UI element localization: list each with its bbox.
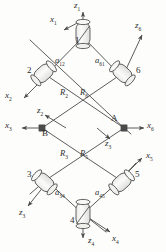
R5-sub: 5	[85, 154, 88, 160]
joint-5-cylinder	[107, 168, 136, 196]
link-length-a45: a45	[95, 188, 105, 199]
x2-sub: 2	[9, 96, 12, 102]
z3c-sub: 3	[109, 144, 112, 150]
z3l-sub: 3	[23, 213, 26, 219]
z4-sub: 4	[92, 241, 95, 247]
axis-label-z3-center: z3	[105, 139, 111, 150]
z1-sub: 1	[78, 6, 81, 12]
axis-label-x3: x3	[5, 121, 12, 132]
axis-label-x6: x6	[147, 121, 154, 132]
joint-4-cylinder	[76, 199, 90, 228]
x4-sub: 4	[116, 239, 119, 245]
joint-number-5: 5	[135, 170, 140, 179]
offset-R3: R3	[60, 149, 68, 160]
a12-sub: 12	[59, 61, 65, 67]
R2-sub: 2	[65, 93, 68, 99]
joint-6-cylinder	[108, 59, 137, 87]
joint-number-2: 2	[27, 66, 32, 75]
axis-z2	[45, 115, 66, 128]
a34-sub: 34	[59, 193, 65, 199]
axis-label-z3-lower: z3	[19, 208, 25, 219]
joint-number-4: 4	[70, 216, 75, 225]
joint-cylinders	[29, 19, 137, 228]
point-label-B: B	[42, 129, 48, 138]
axis-label-z4: z4	[88, 236, 94, 247]
R3-sub: 3	[65, 154, 68, 160]
axis-label-x4: x4	[112, 234, 119, 245]
a61-sub: 61	[99, 61, 105, 67]
R6-sub: 6	[85, 93, 88, 99]
axis-label-x5: x5	[146, 151, 153, 162]
axis-label-x2: x2	[5, 91, 12, 102]
link-length-a61: a61	[95, 56, 105, 67]
x5-sub: 5	[150, 156, 153, 162]
x3-sub: 3	[9, 126, 12, 132]
offset-R5: R5	[80, 149, 88, 160]
kinematic-diagram: 1 2 3 4 5 6 a12 a61 a34 a45 R2 R6 R3 R5 …	[0, 0, 166, 252]
link-length-a34: a34	[55, 188, 65, 199]
link-length-a12: a12	[55, 56, 65, 67]
x6-sub: 6	[151, 126, 154, 132]
center-nodes	[39, 125, 128, 132]
point-label-A: A	[111, 114, 118, 123]
axis-label-z6: z6	[135, 21, 141, 32]
z2-sub: 2	[41, 111, 44, 117]
axis-label-z2: z2	[37, 106, 43, 117]
offset-R6: R6	[80, 88, 88, 99]
z6-sub: 6	[139, 26, 142, 32]
joint-number-1: 1	[75, 36, 80, 45]
joint-number-3: 3	[27, 170, 32, 179]
x1-sub: 1	[54, 20, 57, 26]
a45-sub: 45	[99, 193, 105, 199]
joint-2-cylinder	[29, 59, 58, 87]
joint-number-6: 6	[136, 66, 141, 75]
axis-label-x1: x1	[50, 15, 57, 26]
axis-label-z1: z1	[74, 1, 80, 12]
offset-R2: R2	[60, 88, 68, 99]
